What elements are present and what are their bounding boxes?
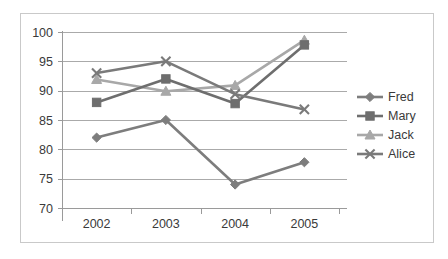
legend-item-mary[interactable]: Mary [357,109,417,123]
gridlines-group [58,31,347,221]
y-tick-label: 90 [39,84,53,98]
series-mary-point-2002-square-marker [92,98,100,106]
series-fred [92,115,309,189]
series-line-jack [97,40,305,91]
series-jack [92,35,310,95]
x-tick-label: 2003 [152,217,180,231]
legend-label-mary: Mary [388,109,417,123]
x-axis-labels: 2002200320042005 [83,217,319,231]
y-tick-label: 85 [39,114,53,128]
legend-label-fred: Fred [388,90,414,104]
y-axis-labels: 100959085807570 [32,26,53,216]
line-chart: 1009590858075702002200320042005FredMaryJ… [21,14,433,242]
y-tick-label: 80 [39,143,53,157]
series-mary-point-2003-square-marker [162,75,170,83]
series-line-fred [97,120,305,185]
legend-swatch-mary-square-marker [366,112,374,120]
x-tick-label: 2002 [83,217,111,231]
legend-item-jack[interactable]: Jack [357,128,414,142]
x-tick-label: 2004 [221,217,249,231]
legend-label-alice: Alice [388,147,415,161]
x-tick-label: 2005 [290,217,318,231]
y-tick-label: 75 [39,172,53,186]
series-mary-point-2005-square-marker [300,41,308,49]
series-mary-point-2004-square-marker [231,99,239,107]
legend-label-jack: Jack [388,128,414,142]
legend-swatch-fred-diamond-marker [365,92,374,101]
y-tick-label: 70 [39,202,53,216]
series-fred-point-2002-diamond-marker [92,133,101,142]
legend-item-alice[interactable]: Alice [357,147,415,161]
y-tick-label: 95 [39,55,53,69]
series-fred-point-2005-diamond-marker [300,158,309,167]
series-line-mary [97,45,305,104]
legend-item-fred[interactable]: Fred [357,90,414,104]
y-tick-label: 100 [32,26,53,40]
x-tickmarks-group [63,209,340,214]
series-mary [92,41,308,108]
chart-frame: 1009590858075702002200320042005FredMaryJ… [20,13,434,243]
legend: FredMaryJackAlice [357,90,417,161]
